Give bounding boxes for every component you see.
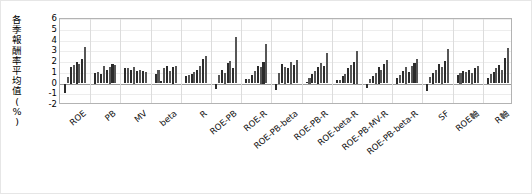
bar bbox=[356, 51, 358, 83]
x-tick-label-text: SF bbox=[437, 109, 451, 123]
bar bbox=[202, 59, 204, 84]
y-tick-label: 5 bbox=[52, 25, 57, 34]
bar bbox=[224, 73, 226, 84]
bar bbox=[81, 59, 83, 84]
bar bbox=[378, 67, 380, 83]
bar bbox=[245, 79, 247, 83]
y-axis-tick-labels: 6543210-1-2 bbox=[41, 13, 57, 105]
y-tick-label: 6 bbox=[52, 14, 57, 23]
bar bbox=[347, 68, 349, 83]
horizontal-gridline bbox=[60, 41, 511, 42]
bar bbox=[504, 58, 506, 84]
bar bbox=[191, 74, 193, 84]
bar bbox=[490, 74, 492, 84]
bar bbox=[477, 66, 479, 83]
bar bbox=[474, 68, 476, 83]
bar bbox=[342, 76, 344, 84]
bar bbox=[306, 82, 308, 83]
y-tick-label: 3 bbox=[52, 46, 57, 55]
bar bbox=[172, 67, 174, 83]
x-tick-label-text: PB bbox=[104, 109, 118, 123]
vertical-gridline bbox=[483, 19, 484, 103]
y-tick-label: -1 bbox=[49, 89, 57, 98]
bar bbox=[124, 68, 126, 83]
bar bbox=[64, 84, 66, 94]
y-axis-title-char: ) bbox=[9, 117, 25, 127]
y-tick-label: 2 bbox=[52, 57, 57, 66]
bar bbox=[199, 66, 201, 83]
bar bbox=[157, 70, 159, 84]
bar bbox=[175, 66, 177, 83]
bar bbox=[133, 67, 135, 83]
bar bbox=[257, 66, 259, 83]
bar bbox=[94, 73, 96, 84]
bar bbox=[100, 74, 102, 84]
bar bbox=[296, 60, 298, 84]
x-tick-label-text: beta bbox=[158, 109, 178, 128]
bar bbox=[166, 66, 168, 83]
x-tick-label-text: R軸 bbox=[493, 109, 510, 125]
horizontal-gridline bbox=[60, 51, 511, 52]
bar bbox=[320, 63, 322, 83]
bar bbox=[248, 79, 250, 83]
bar bbox=[411, 66, 413, 83]
bar bbox=[188, 75, 190, 84]
bar bbox=[227, 63, 229, 83]
bar bbox=[169, 71, 171, 84]
bar bbox=[73, 65, 75, 83]
bar bbox=[103, 66, 105, 83]
bar bbox=[196, 70, 198, 84]
bar bbox=[109, 67, 111, 83]
bar bbox=[380, 70, 382, 84]
y-tick-label: 0 bbox=[52, 79, 57, 88]
bar bbox=[127, 68, 129, 83]
bar bbox=[114, 65, 116, 83]
bar bbox=[111, 64, 113, 83]
x-tick-label-text: ROE-R bbox=[243, 109, 269, 133]
bar bbox=[293, 65, 295, 83]
bar bbox=[353, 62, 355, 84]
vertical-gridline bbox=[332, 19, 333, 103]
bar bbox=[350, 65, 352, 83]
bar bbox=[218, 75, 220, 84]
bar bbox=[229, 61, 231, 84]
bar bbox=[284, 67, 286, 83]
x-axis-tick-labels: ROEPBMVbetaRROE-PBROE-RROE-PB-betaROE-PB… bbox=[59, 105, 512, 191]
vertical-gridline bbox=[302, 19, 303, 103]
bar bbox=[235, 37, 237, 83]
bar bbox=[308, 78, 310, 83]
x-tick-label-text: ROE軸 bbox=[454, 109, 480, 133]
bar bbox=[369, 79, 371, 83]
bar bbox=[254, 71, 256, 84]
bar bbox=[160, 81, 162, 83]
bar bbox=[106, 70, 108, 84]
vertical-gridline bbox=[90, 19, 91, 103]
vertical-gridline bbox=[453, 19, 454, 103]
bar bbox=[447, 49, 449, 83]
bar bbox=[507, 48, 509, 83]
bar bbox=[402, 71, 404, 84]
bar bbox=[97, 72, 99, 84]
bar bbox=[145, 72, 147, 84]
bar bbox=[70, 67, 72, 83]
vertical-gridline bbox=[181, 19, 182, 103]
bar bbox=[136, 71, 138, 84]
vertical-gridline bbox=[422, 19, 423, 103]
vertical-gridline bbox=[362, 19, 363, 103]
x-tick-label-text: MV bbox=[132, 109, 148, 124]
vertical-gridline bbox=[120, 19, 121, 103]
vertical-gridline bbox=[211, 19, 212, 103]
bar bbox=[326, 53, 328, 83]
vertical-gridline bbox=[151, 19, 152, 103]
horizontal-gridline bbox=[60, 30, 511, 31]
y-tick-label: 1 bbox=[52, 68, 57, 77]
bar bbox=[399, 75, 401, 84]
bar bbox=[265, 44, 267, 84]
bar bbox=[501, 70, 503, 84]
bar bbox=[317, 67, 319, 83]
bar bbox=[142, 71, 144, 84]
bar bbox=[405, 67, 407, 83]
bar bbox=[435, 70, 437, 84]
bar bbox=[314, 71, 316, 84]
bar bbox=[78, 64, 80, 83]
